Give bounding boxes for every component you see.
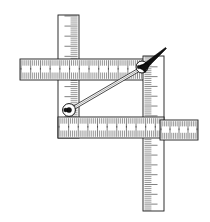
pivot-lower	[63, 104, 76, 117]
ruler-linkage-figure	[0, 0, 210, 222]
horizontal-ruler-bottom	[58, 117, 164, 138]
horizontal-ruler-right-stub	[160, 120, 198, 140]
figure-background	[0, 0, 210, 222]
pivot-lower-hub-secondary	[64, 108, 68, 112]
figure-canvas	[0, 0, 210, 222]
